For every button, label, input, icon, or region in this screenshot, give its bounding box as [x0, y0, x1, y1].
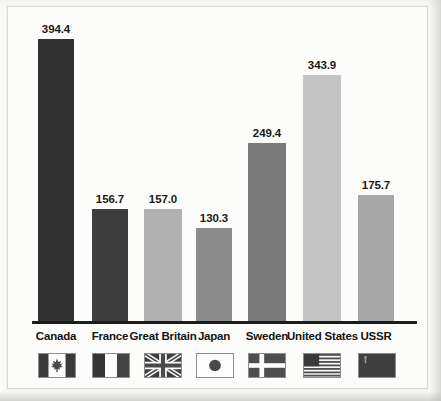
bar-canada	[38, 39, 74, 321]
bar-value-label-united-states: 343.9	[294, 59, 350, 71]
flag-france-icon	[92, 353, 130, 378]
bar-value-label-ussr: 175.7	[349, 179, 403, 191]
flag-canada-icon	[38, 353, 76, 378]
flag-great-britain-icon	[144, 353, 182, 378]
bar-great-britain	[144, 209, 182, 321]
flag-united-states-icon	[303, 353, 341, 378]
chart-figure: Chapter 8 Tables Consumption of energy e…	[0, 0, 441, 401]
bar-ussr	[358, 195, 394, 321]
scan-edge-bottom	[0, 391, 441, 401]
category-label-ussr: USSR	[342, 330, 410, 342]
flag-japan-icon	[196, 353, 234, 378]
bar-value-label-france: 156.7	[83, 193, 137, 205]
bar-value-label-great-britain: 157.0	[135, 193, 191, 205]
bar-france	[92, 209, 128, 321]
x-axis-baseline	[32, 321, 417, 324]
bar-value-label-japan: 130.3	[187, 212, 241, 224]
bar-value-label-sweden: 249.4	[239, 127, 295, 139]
bar-sweden	[248, 143, 286, 321]
scan-edge-right	[429, 0, 441, 401]
bar-united-states	[303, 75, 341, 321]
bar-japan	[196, 228, 232, 321]
bar-value-label-canada: 394.4	[29, 23, 83, 35]
flag-sweden-icon	[248, 353, 286, 378]
flag-ussr-icon	[358, 353, 396, 378]
